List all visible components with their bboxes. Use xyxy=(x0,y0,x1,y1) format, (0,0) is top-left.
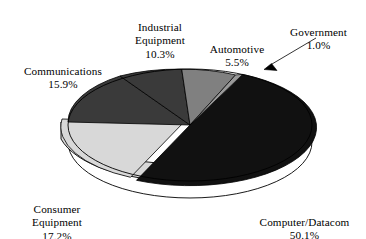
slice-label-consumer-equipment-pct: 17.2% xyxy=(2,230,112,239)
slice-label-computer-datacom-name: Computer/Datacom xyxy=(260,216,350,228)
slice-label-industrial-equipment-name: Industrial Equipment xyxy=(135,21,185,46)
slice-label-computer-datacom-pct: 50.1% xyxy=(243,229,366,239)
slice-label-government-pct: 1.0% xyxy=(271,39,366,52)
slice-label-government: Government 1.0% xyxy=(271,13,366,66)
slice-label-consumer-equipment-name: Consumer Equipment xyxy=(32,203,82,228)
slice-label-consumer-equipment: Consumer Equipment 17.2% xyxy=(2,190,112,239)
slice-label-automotive-pct: 5.5% xyxy=(191,56,283,69)
slice-label-automotive: Automotive 5.5% xyxy=(191,30,283,83)
pie-chart: Industrial Equipment 10.3% Automotive 5.… xyxy=(0,0,366,239)
slice-label-computer-datacom: Computer/Datacom 50.1% xyxy=(243,203,366,239)
slice-label-government-name: Government xyxy=(290,26,347,38)
slice-label-communications-name: Communications xyxy=(24,65,102,77)
slice-label-communications: Communications 15.9% xyxy=(2,52,124,105)
slice-label-automotive-name: Automotive xyxy=(210,43,264,55)
slice-label-communications-pct: 15.9% xyxy=(2,78,124,91)
